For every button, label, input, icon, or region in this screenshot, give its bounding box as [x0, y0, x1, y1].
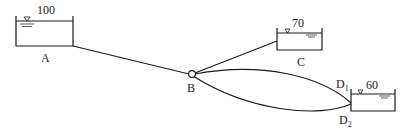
pipe-end-d1-label: D1	[336, 77, 349, 93]
reservoir-a-label: A	[41, 51, 50, 65]
pipe-b-d1	[195, 70, 351, 103]
pipe-b-c	[195, 41, 277, 73]
reservoir-a-level: 100	[37, 3, 55, 17]
reservoir-d-level: 60	[366, 78, 378, 92]
reservoir-d	[351, 89, 395, 111]
reservoir-c-label: C	[297, 55, 305, 69]
reservoir-a	[16, 16, 73, 46]
junction-b-label: B	[187, 81, 195, 95]
pipe-end-d2-label: D2	[339, 113, 352, 129]
pipe-b-d2	[193, 76, 351, 111]
reservoir-c-level: 70	[292, 16, 304, 30]
water-level-icon-a	[20, 17, 34, 27]
pipe-a-b	[73, 46, 189, 74]
junction-b-node	[189, 71, 196, 78]
reservoir-c	[277, 28, 322, 50]
pipe-network-diagram: 100 A 70 C 60 B D1 D2	[0, 0, 410, 131]
